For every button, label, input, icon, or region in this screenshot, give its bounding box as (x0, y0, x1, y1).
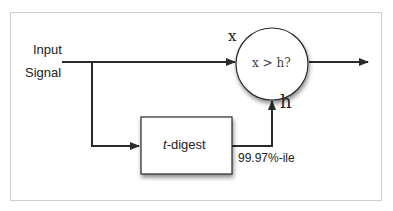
digest-text: -digest (167, 137, 206, 152)
h-label: h (280, 91, 292, 112)
signal-label: Signal (25, 65, 61, 80)
t-digest-label: t-digest (163, 137, 206, 152)
diagram-canvas (0, 0, 393, 211)
x-label: x (228, 27, 236, 45)
input-to-digest-arrow (92, 62, 139, 146)
digest-to-comparator-arrow (232, 101, 272, 146)
input-label: Input (33, 42, 62, 57)
comparator-text: x > h? (252, 56, 291, 70)
percentile-label: 99.97%-ile (238, 151, 295, 165)
